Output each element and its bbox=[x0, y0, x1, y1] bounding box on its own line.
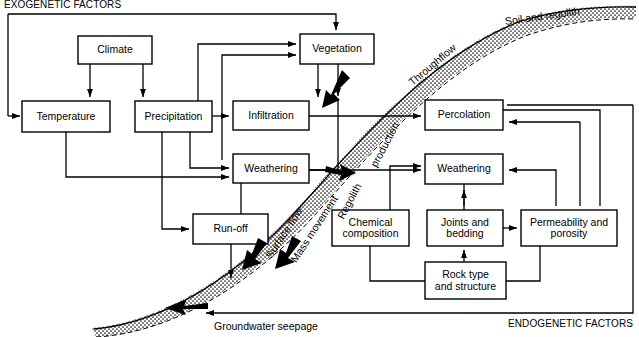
edge-vegetation-weathering bbox=[309, 100, 338, 170]
edge-chemical-weatheringR bbox=[390, 166, 421, 210]
box-vegetation bbox=[300, 34, 374, 64]
edge-percolation-permeability bbox=[503, 110, 600, 206]
box-precipitation bbox=[135, 101, 212, 132]
box-permeability bbox=[521, 210, 617, 246]
diagram-canvas bbox=[0, 0, 639, 337]
label-groundwater-seepage: Groundwater seepage bbox=[214, 320, 318, 332]
endogenetic-factors-label: ENDOGENETIC FACTORS bbox=[508, 318, 633, 329]
edge-precip-vegetation bbox=[198, 44, 296, 101]
edge-precip-runoff bbox=[162, 132, 189, 229]
box-joints bbox=[427, 210, 503, 246]
box-climate bbox=[78, 36, 152, 64]
box-percolation bbox=[425, 100, 503, 130]
edge-rocktype-chemical bbox=[370, 246, 425, 281]
box-runoff bbox=[193, 214, 268, 244]
box-weathering_l bbox=[233, 154, 309, 183]
box-temperature bbox=[22, 101, 110, 132]
box-rects bbox=[22, 34, 617, 299]
edge-temperature-weathering bbox=[66, 132, 229, 177]
edge-rocktype-permeability bbox=[506, 246, 540, 281]
edge-permeability-weatheringR bbox=[509, 170, 556, 206]
box-weathering_r bbox=[425, 154, 503, 184]
diagram-root: EXOGENETIC FACTORS ENDOGENETIC FACTORS C… bbox=[0, 0, 639, 337]
exogenetic-factors-label: EXOGENETIC FACTORS bbox=[4, 0, 121, 10]
box-rocktype bbox=[425, 262, 506, 299]
edge-precip-weathering bbox=[190, 132, 229, 168]
box-infiltration bbox=[233, 101, 309, 130]
